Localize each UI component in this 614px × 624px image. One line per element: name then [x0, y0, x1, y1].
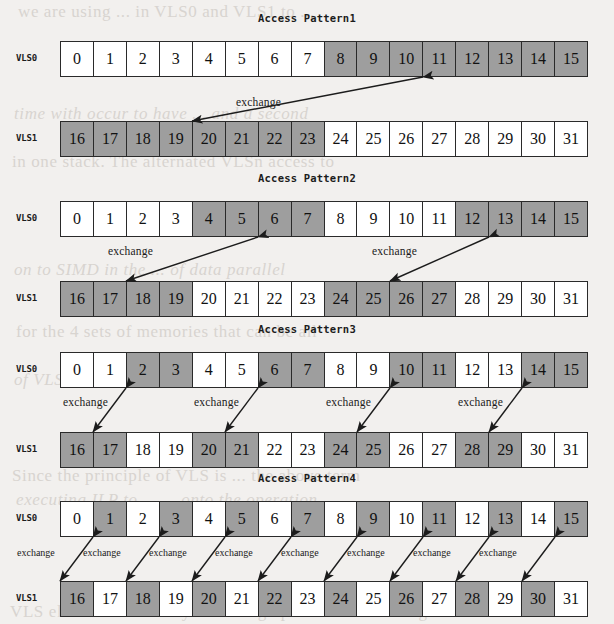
- vls-cell: 24: [325, 122, 358, 156]
- exchange-arrow: [126, 537, 159, 581]
- vls-cell: 14: [522, 353, 555, 387]
- row-label-vls0: VLS0: [16, 364, 58, 374]
- pattern-title: Access Pattern1: [0, 12, 614, 24]
- vls-cell: 15: [555, 353, 587, 387]
- vls-cell: 27: [423, 122, 456, 156]
- vls-cell: 13: [489, 353, 522, 387]
- row-label-vls1: VLS1: [16, 293, 58, 303]
- vls-cell: 0: [61, 202, 94, 236]
- exchange-arrow: [522, 537, 555, 581]
- vls-cell: 14: [522, 42, 555, 76]
- vls-cell: 9: [357, 42, 390, 76]
- exchange-label: exchange: [108, 245, 153, 257]
- vls-cell: 10: [390, 202, 423, 236]
- vls-row: 0123456789101112131415: [60, 501, 588, 537]
- vls-cell: 4: [193, 502, 226, 536]
- figure-page: we are using ... in VLS0 and VLS1 to ...…: [0, 0, 614, 624]
- exchange-arrow: [258, 537, 291, 581]
- vls-cell: 16: [61, 122, 94, 156]
- vls-cell: 28: [456, 582, 489, 616]
- exchange-label: exchange: [372, 245, 417, 257]
- vls-cell: 4: [193, 42, 226, 76]
- vls-cell: 26: [390, 582, 423, 616]
- vls-row: 0123456789101112131415: [60, 352, 588, 388]
- vls-cell: 3: [160, 353, 193, 387]
- vls-cell: 19: [160, 122, 193, 156]
- exchange-arrow: [489, 388, 522, 432]
- vls-cell: 11: [423, 202, 456, 236]
- vls-cell: 8: [325, 202, 358, 236]
- exchange-arrow: [225, 388, 258, 432]
- pattern-title: Access Pattern2: [0, 172, 614, 184]
- vls-cell: 23: [292, 122, 325, 156]
- vls-cell: 6: [259, 502, 292, 536]
- vls-cell: 21: [226, 582, 259, 616]
- vls-cell: 21: [226, 122, 259, 156]
- vls-cell: 15: [555, 42, 587, 76]
- row-label-vls0: VLS0: [16, 213, 58, 223]
- exchange-arrow: [390, 537, 423, 581]
- vls-cell: 16: [61, 582, 94, 616]
- vls-cell: 4: [193, 353, 226, 387]
- exchange-label: exchange: [347, 547, 385, 558]
- vls-cell: 29: [489, 582, 522, 616]
- vls-cell: 8: [325, 353, 358, 387]
- vls-cell: 5: [226, 353, 259, 387]
- vls-cell: 1: [94, 42, 127, 76]
- access-pattern-block: Access Pattern1VLS0012345678910111213141…: [0, 0, 614, 160]
- vls-cell: 9: [357, 353, 390, 387]
- vls-cell: 1: [94, 353, 127, 387]
- vls-cell: 1: [94, 202, 127, 236]
- vls-cell: 13: [489, 502, 522, 536]
- access-pattern-block: Access Pattern4VLS0012345678910111213141…: [0, 460, 614, 620]
- vls-cell: 17: [94, 582, 127, 616]
- exchange-arrow: [390, 237, 489, 281]
- vls-cell: 22: [259, 122, 292, 156]
- vls-cell: 12: [456, 42, 489, 76]
- exchange-label: exchange: [236, 96, 281, 108]
- vls-cell: 18: [127, 582, 160, 616]
- vls-cell: 22: [259, 582, 292, 616]
- vls-cell: 24: [325, 582, 358, 616]
- vls-cell: 9: [357, 502, 390, 536]
- vls-cell: 8: [325, 502, 358, 536]
- vls-cell: 23: [292, 582, 325, 616]
- exchange-label: exchange: [215, 547, 253, 558]
- vls-cell: 18: [127, 122, 160, 156]
- vls-cell: 15: [555, 202, 587, 236]
- exchange-label: exchange: [413, 547, 451, 558]
- vls-cell: 7: [292, 502, 325, 536]
- vls-cell: 0: [61, 42, 94, 76]
- vls-cell: 31: [555, 582, 587, 616]
- vls-cell: 11: [423, 502, 456, 536]
- exchange-arrow: [93, 388, 126, 432]
- vls-cell: 13: [489, 42, 522, 76]
- vls-cell: 6: [259, 42, 292, 76]
- exchange-label: exchange: [63, 396, 108, 408]
- vls-cell: 12: [456, 502, 489, 536]
- vls-cell: 11: [423, 353, 456, 387]
- exchange-label: exchange: [194, 396, 239, 408]
- vls-cell: 7: [292, 353, 325, 387]
- exchange-arrow: [192, 537, 225, 581]
- exchange-label: exchange: [17, 547, 55, 558]
- vls-row: 16171819202122232425262728293031: [60, 121, 588, 157]
- exchange-label: exchange: [479, 547, 517, 558]
- vls-cell: 12: [456, 353, 489, 387]
- vls-cell: 10: [390, 42, 423, 76]
- exchange-label: exchange: [281, 547, 319, 558]
- vls-cell: 2: [127, 353, 160, 387]
- vls-cell: 14: [522, 502, 555, 536]
- vls-cell: 1: [94, 502, 127, 536]
- vls-cell: 2: [127, 42, 160, 76]
- vls-cell: 10: [390, 502, 423, 536]
- vls-cell: 25: [357, 582, 390, 616]
- exchange-label: exchange: [83, 547, 121, 558]
- exchange-arrow: [357, 388, 390, 432]
- vls-row: 16171819202122232425262728293031: [60, 581, 588, 617]
- exchange-arrow: [192, 77, 423, 121]
- vls-cell: 4: [193, 202, 226, 236]
- exchange-label: exchange: [326, 396, 371, 408]
- vls-cell: 5: [226, 42, 259, 76]
- vls-cell: 2: [127, 202, 160, 236]
